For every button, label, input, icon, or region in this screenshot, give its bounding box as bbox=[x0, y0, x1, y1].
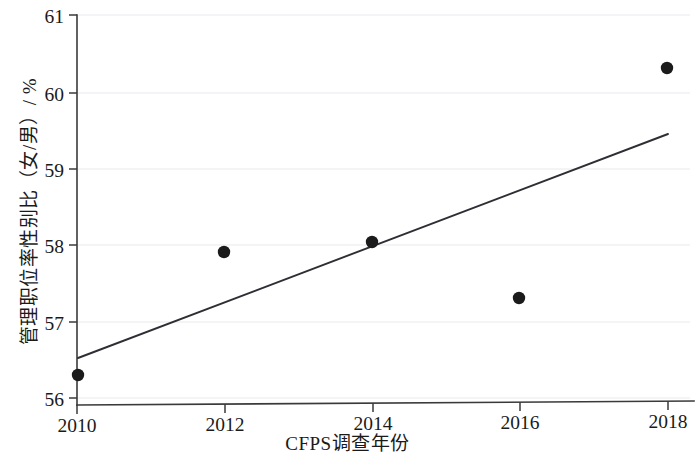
scatter-plot-canvas: 61 60 59 58 57 56 2010 2012 2014 2016 20… bbox=[0, 0, 695, 458]
data-point-2016 bbox=[513, 292, 525, 304]
x-axis-title: CFPS调查年份 bbox=[0, 428, 695, 455]
y-axis-title: 管理职位率性别比（女/男）/ % bbox=[14, 2, 41, 422]
data-point-2012 bbox=[218, 246, 230, 258]
y-axis-ticks bbox=[69, 15, 77, 398]
y-tick-label-61: 61 bbox=[45, 6, 65, 27]
gridlines bbox=[77, 15, 690, 398]
y-axis-tick-labels: 61 60 59 58 57 56 bbox=[45, 6, 65, 410]
data-points bbox=[72, 62, 673, 381]
axes bbox=[77, 15, 694, 405]
data-point-2014 bbox=[366, 236, 378, 248]
data-point-2010 bbox=[72, 369, 84, 381]
y-tick-label-59: 59 bbox=[45, 160, 65, 181]
y-tick-label-57: 57 bbox=[45, 313, 65, 334]
y-tick-label-58: 58 bbox=[45, 236, 65, 257]
data-point-2018 bbox=[661, 62, 673, 74]
chart-figure: 61 60 59 58 57 56 2010 2012 2014 2016 20… bbox=[0, 0, 695, 458]
y-tick-label-60: 60 bbox=[45, 84, 65, 105]
x-axis-line bbox=[77, 401, 694, 405]
y-tick-label-56: 56 bbox=[45, 389, 65, 410]
